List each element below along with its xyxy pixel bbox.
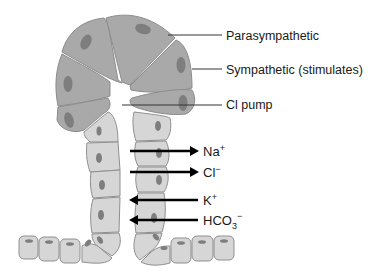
label-cl-pump: Cl pump	[226, 98, 273, 112]
nucleus	[156, 148, 162, 158]
arrowhead-right-icon	[190, 146, 199, 156]
ion-label-k: K+	[203, 192, 217, 208]
nucleus	[151, 213, 157, 223]
arrowhead-right-icon	[190, 167, 199, 177]
nucleus	[177, 241, 185, 245]
arrowhead-left-icon	[129, 215, 138, 225]
nucleus	[25, 239, 33, 243]
surface-epithelium-left	[19, 236, 80, 263]
nucleus	[98, 210, 104, 220]
ion-label-cl: Cl−	[203, 164, 221, 180]
label-sympathetic: Sympathetic (stimulates)	[226, 63, 363, 77]
duct-cell	[90, 170, 120, 198]
duct-cell	[135, 141, 169, 166]
duct-left-wall	[82, 112, 120, 263]
nucleus	[97, 127, 102, 136]
surface-epithelium-right	[171, 236, 234, 263]
nucleus	[179, 95, 188, 111]
duct-right-wall	[133, 112, 171, 265]
gland-diagram: Parasympathetic Sympathetic (stimulates)…	[0, 0, 385, 277]
surface-cell	[192, 236, 213, 261]
duct-cell	[86, 142, 120, 172]
nucleus	[220, 239, 228, 243]
nucleus	[96, 153, 102, 163]
duct-cell	[133, 112, 171, 141]
nucleus	[155, 121, 161, 131]
nucleus	[66, 242, 74, 246]
nucleus	[161, 246, 168, 250]
ion-label-hco3: HCO3−	[203, 211, 242, 231]
nucleus	[198, 240, 206, 244]
acinar-cells	[56, 15, 195, 131]
nucleus	[64, 76, 73, 92]
nucleus	[177, 57, 186, 73]
nucleus	[99, 180, 105, 190]
duct-cell	[91, 197, 120, 233]
nucleus	[156, 175, 162, 185]
ion-label-na: Na+	[203, 143, 225, 159]
nucleus	[45, 240, 53, 244]
arrowhead-left-icon	[129, 195, 138, 205]
label-parasympathetic: Parasympathetic	[226, 29, 319, 43]
